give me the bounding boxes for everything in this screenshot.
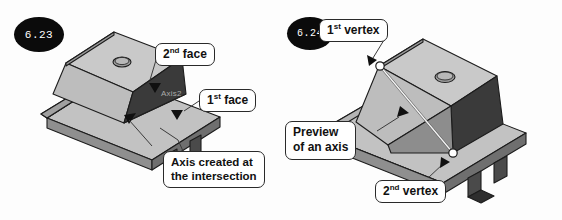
callout-first-vertex-prefix: 1 — [327, 23, 334, 37]
vertex-marker-second — [449, 149, 457, 157]
callout-axis-created: Axis created at the intersection — [163, 151, 265, 188]
callout-first-face-prefix: 1 — [207, 93, 214, 107]
figure-6-24: 6.24 1st vertex Preview of an axis 2nd v… — [281, 0, 562, 220]
callout-second-face-prefix: 2 — [163, 47, 170, 61]
callout-first-vertex: 1st vertex — [319, 19, 388, 42]
feature-tag-axis2: Axis2 — [161, 89, 182, 98]
callout-preview-axis: Preview of an axis — [285, 121, 356, 160]
callout-axis-created-line1: Axis created at — [171, 155, 257, 169]
callout-preview-axis-line1: Preview — [293, 125, 348, 140]
callout-first-vertex-text: vertex — [341, 23, 380, 37]
callout-first-face: 1st face — [199, 89, 256, 112]
boss-hole-inner — [437, 72, 453, 80]
callout-second-vertex-prefix: 2 — [383, 184, 390, 198]
callout-second-face: 2nd face — [155, 43, 215, 66]
vertex-marker-first — [376, 62, 384, 70]
callout-preview-axis-line2: of an axis — [293, 140, 348, 155]
figure-6-23: 6.23 2nd face 1st face Axis created at t… — [0, 0, 281, 220]
callout-first-face-text: face — [221, 93, 248, 107]
callout-second-vertex-sup: nd — [390, 183, 400, 192]
callout-second-vertex: 2nd vertex — [375, 180, 446, 203]
leader-first-vertex — [373, 40, 384, 58]
callout-second-face-text: face — [179, 47, 206, 61]
figure-page: 6.23 2nd face 1st face Axis created at t… — [0, 0, 562, 220]
callout-first-vertex-sup: st — [334, 22, 341, 31]
callout-first-face-sup: st — [214, 92, 221, 101]
boss-hole-inner — [115, 57, 129, 64]
callout-second-vertex-text: vertex — [399, 184, 438, 198]
callout-axis-created-line2: the intersection — [171, 169, 257, 183]
callout-second-face-sup: nd — [170, 46, 180, 55]
figure-number-badge: 6.23 — [14, 17, 64, 52]
